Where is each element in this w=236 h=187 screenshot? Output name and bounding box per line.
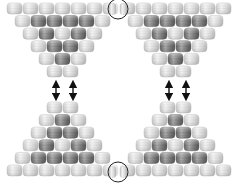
light-bead	[79, 127, 94, 138]
light-bead	[47, 102, 62, 113]
light-bead	[63, 102, 78, 113]
dark-bead	[63, 127, 78, 138]
light-bead	[144, 41, 159, 52]
dark-bead	[176, 16, 191, 27]
light-bead	[184, 165, 199, 176]
dark-bead	[79, 16, 94, 27]
dark-bead	[31, 16, 46, 27]
light-bead	[63, 66, 78, 77]
dark-bead	[176, 41, 191, 52]
light-bead	[136, 140, 151, 151]
light-bead	[168, 28, 183, 39]
light-bead	[184, 115, 199, 126]
dark-bead	[144, 152, 159, 163]
bead-pattern-diagram	[0, 0, 236, 187]
light-bead	[168, 165, 183, 176]
light-bead	[7, 3, 22, 14]
light-bead	[87, 140, 102, 151]
dark-bead	[47, 16, 62, 27]
light-bead	[7, 165, 22, 176]
light-bead	[87, 3, 102, 14]
light-bead	[208, 152, 223, 163]
light-bead	[184, 3, 199, 14]
light-bead	[176, 66, 191, 77]
light-bead	[23, 165, 38, 176]
dark-bead	[184, 140, 199, 151]
light-bead	[55, 165, 70, 176]
light-bead	[136, 28, 151, 39]
triangle-bottom-right	[120, 102, 231, 176]
dark-bead	[79, 152, 94, 163]
light-bead	[23, 140, 38, 151]
light-bead	[216, 165, 231, 176]
dark-bead	[63, 16, 78, 27]
light-bead	[71, 53, 86, 64]
light-bead	[192, 41, 207, 52]
dark-bead	[176, 152, 191, 163]
dark-bead	[47, 41, 62, 52]
circle-layer	[108, 0, 128, 182]
light-bead	[55, 140, 70, 151]
light-bead	[71, 115, 86, 126]
light-bead	[152, 115, 167, 126]
light-bead	[87, 28, 102, 39]
light-bead	[95, 16, 110, 27]
light-bead	[71, 165, 86, 176]
light-bead	[152, 53, 167, 64]
light-bead	[55, 3, 70, 14]
dark-bead	[63, 152, 78, 163]
dark-bead	[71, 140, 86, 151]
arrow-layer	[56, 84, 186, 97]
dark-bead	[160, 16, 175, 27]
dark-bead	[168, 53, 183, 64]
light-bead	[176, 102, 191, 113]
dark-bead	[192, 16, 207, 27]
light-bead	[192, 127, 207, 138]
dark-bead	[39, 28, 54, 39]
light-bead	[15, 16, 30, 27]
light-bead	[23, 28, 38, 39]
light-bead	[95, 152, 110, 163]
light-bead	[79, 41, 94, 52]
light-bead	[184, 53, 199, 64]
dark-bead	[160, 127, 175, 138]
dark-bead	[55, 115, 70, 126]
dark-bead	[47, 127, 62, 138]
dark-bead	[192, 152, 207, 163]
light-bead	[136, 3, 151, 14]
light-bead	[168, 140, 183, 151]
light-bead	[87, 165, 102, 176]
light-bead	[71, 3, 86, 14]
dark-bead	[144, 16, 159, 27]
dark-bead	[39, 140, 54, 151]
dark-bead	[47, 152, 62, 163]
dark-bead	[168, 115, 183, 126]
light-bead	[144, 127, 159, 138]
dark-bead	[152, 28, 167, 39]
light-bead	[55, 28, 70, 39]
light-bead	[39, 115, 54, 126]
triangle-top-right	[120, 3, 231, 77]
light-bead	[23, 3, 38, 14]
dark-bead	[31, 152, 46, 163]
light-bead	[128, 16, 143, 27]
triangle-bottom-left	[7, 102, 118, 176]
light-bead	[39, 165, 54, 176]
dark-bead	[160, 152, 175, 163]
dark-bead	[71, 28, 86, 39]
diagram-canvas	[0, 0, 236, 187]
light-bead	[136, 165, 151, 176]
light-bead	[200, 165, 215, 176]
light-bead	[208, 16, 223, 27]
dark-bead	[184, 28, 199, 39]
light-bead	[168, 3, 183, 14]
light-bead	[160, 102, 175, 113]
light-bead	[200, 140, 215, 151]
light-bead	[200, 3, 215, 14]
light-bead	[31, 41, 46, 52]
light-bead	[47, 66, 62, 77]
dark-bead	[152, 140, 167, 151]
light-bead	[152, 165, 167, 176]
light-bead	[160, 66, 175, 77]
light-bead	[152, 3, 167, 14]
